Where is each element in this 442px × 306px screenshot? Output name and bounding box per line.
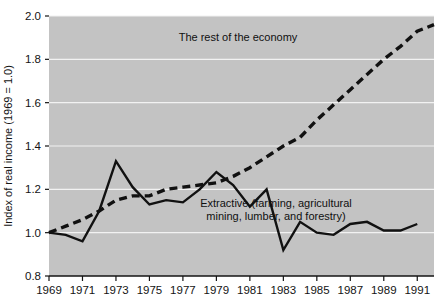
- annotation-line: mining, lumber, and forestry): [206, 210, 345, 222]
- x-tick-label: 1983: [271, 284, 297, 296]
- x-tick-label: 1979: [204, 284, 230, 296]
- x-tick-label: 1991: [404, 284, 430, 296]
- rest-of-economy-label: The rest of the economy: [179, 31, 298, 43]
- y-tick-label: 2.0: [25, 10, 41, 22]
- x-tick-label: 1977: [170, 284, 196, 296]
- y-axis-ticks: 0.81.01.21.41.61.82.0: [25, 10, 49, 282]
- y-tick-label: 1.0: [25, 227, 41, 239]
- y-axis-title: Index of real income (1969 = 1.0): [2, 65, 14, 227]
- x-tick-label: 1975: [137, 284, 163, 296]
- x-tick-label: 1969: [36, 284, 62, 296]
- chart-container: 0.81.01.21.41.61.82.0 196919711973197519…: [0, 0, 442, 306]
- y-tick-label: 1.2: [25, 183, 41, 195]
- extractive-label: Extractive (farming, agriculturalmining,…: [200, 197, 352, 222]
- y-tick-label: 0.8: [25, 270, 41, 282]
- x-tick-label: 1981: [237, 284, 263, 296]
- annotation-line: The rest of the economy: [179, 31, 298, 43]
- y-tick-label: 1.4: [25, 140, 42, 152]
- x-tick-label: 1973: [103, 284, 129, 296]
- y-tick-label: 1.8: [25, 53, 41, 65]
- income-index-line-chart: 0.81.01.21.41.61.82.0 196919711973197519…: [0, 0, 442, 306]
- y-tick-label: 1.6: [25, 97, 41, 109]
- x-axis-ticks: 1969197119731975197719791981198319851987…: [36, 276, 430, 296]
- x-tick-label: 1985: [304, 284, 330, 296]
- x-tick-label: 1971: [70, 284, 96, 296]
- x-tick-label: 1989: [371, 284, 397, 296]
- annotation-line: Extractive (farming, agricultural: [200, 197, 352, 209]
- x-tick-label: 1987: [338, 284, 364, 296]
